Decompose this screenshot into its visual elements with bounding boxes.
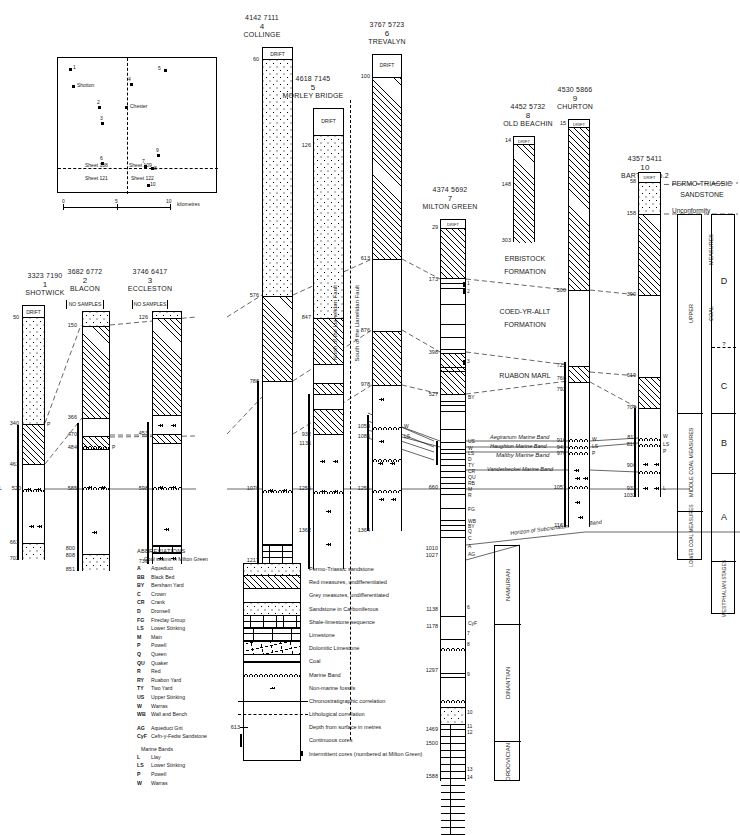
key-label-marine-band: Marine Band <box>309 672 341 678</box>
borehole-6-depth-978: 978 <box>352 381 370 387</box>
map-label-4: 4 <box>128 76 131 82</box>
coal-seam-BY2 <box>441 525 465 526</box>
borehole-5-depth-847: 847 <box>291 314 311 320</box>
map-scale-bar: 0 5 10 kilometres <box>63 203 173 213</box>
borehole-4-depth-60: 60 <box>242 56 259 62</box>
borehole-5-morley-bridge: 4618 7145 5 MORLEY BRIDGE <box>263 75 363 101</box>
map-point-5 <box>164 69 167 72</box>
legend-row-lithological: Lithological correlation <box>243 708 473 721</box>
coal-seam-C <box>441 537 465 538</box>
abbreviation-row: CRCrank <box>137 598 257 607</box>
borehole-2-depth-808: 808 <box>58 552 75 558</box>
marine-band-label-vanderbeckei: Vanderbeckei Marine Band <box>487 466 553 472</box>
abbreviation-row: TYTwo Yard <box>137 684 257 693</box>
depth-example-value: 613 <box>222 724 240 730</box>
abbreviation-code: LS <box>137 761 151 770</box>
legend-row-coal: Coal <box>243 655 473 668</box>
map-scale-tick-0: 0 <box>62 198 65 204</box>
key-swatch-red-measures <box>243 576 301 589</box>
abbreviation-code: AG <box>137 724 151 733</box>
abbreviation-name: Aqueduct <box>151 565 173 571</box>
borehole-7-continuous-core <box>436 441 438 465</box>
borehole-3-no-samples-brackets <box>132 300 168 310</box>
borehole-5-header: 4618 7145 5 MORLEY BRIDGE <box>263 75 363 101</box>
coal-seam-R <box>441 494 465 495</box>
stage-D: D <box>712 215 736 347</box>
borehole-2-depth-484: 484 <box>60 444 77 450</box>
borehole-5-continuous-core <box>308 394 310 569</box>
borehole-2-no-samples-brackets <box>66 300 104 310</box>
borehole-3-red-measures-lower <box>153 434 181 444</box>
coal-seam-CR <box>441 471 465 472</box>
marine-band-swatch <box>244 674 300 677</box>
map-sheet-109-label: Sheet 109 <box>129 162 152 168</box>
abbreviation-row: QUQuaker <box>137 659 257 668</box>
borehole-9-coed-yr-allt <box>569 291 589 366</box>
borehole-2-grey-measures-lower <box>83 450 109 554</box>
key-swatch-sandstone-carboniferous <box>243 603 301 616</box>
borehole-7-name: MILTON GREEN <box>405 203 495 212</box>
map-label-shotton: Shotton <box>77 82 94 88</box>
upper-text: UPPER <box>688 305 694 324</box>
borehole-7-red-measures-ruabon-marl <box>441 353 465 395</box>
marine-band-llay <box>23 489 44 492</box>
legend-row-permo-triassic: Permo-Triassic sandstone <box>243 563 473 576</box>
borehole-5-number: 5 <box>263 84 363 93</box>
borehole-7-seam-US: US <box>468 438 475 444</box>
borehole-1-depth-340: 340 <box>2 420 19 426</box>
borehole-4-drift: DRIFT <box>263 48 292 60</box>
lower-text: LOWER COAL MEASURES <box>688 505 694 568</box>
non-marine-fossil-mark <box>29 525 34 528</box>
abbreviation-code: RY <box>137 676 151 685</box>
borehole-10-seam-LS: LS <box>663 441 669 447</box>
map-point-3 <box>101 122 104 125</box>
legend-row-grey-measures: Grey measures, undifferentiated <box>243 589 473 602</box>
borehole-1-depth-50: 50 <box>2 314 19 320</box>
borehole-8-column: DRIFT <box>513 136 535 242</box>
key-swatch-marine-band <box>243 669 301 682</box>
abbreviation-code: LS <box>137 624 151 633</box>
key-label-chronostratigraphic: Chronostratigraphic correlation <box>309 698 386 704</box>
abbreviation-name: Lower Stinking <box>151 625 185 631</box>
abbreviation-code: Q <box>137 650 151 659</box>
borehole-3-depth-453: 453 <box>131 430 148 436</box>
map-label-chester: Chester <box>130 103 148 109</box>
borehole-7-red-measures-erbistock <box>441 229 465 279</box>
fault-label-north: North of the Llanelidan Fault <box>332 285 338 360</box>
borehole-10-number: 10 <box>600 164 690 173</box>
abbreviation-name: Dronsell <box>151 608 170 614</box>
borehole-10-seam-L: L <box>663 485 666 491</box>
borehole-3-depth-126: 126 <box>131 314 148 320</box>
borehole-8-depth-14: 14 <box>496 137 511 143</box>
borehole-9-depth-970: 970 <box>548 450 566 456</box>
borehole-8-drift: DRIFT <box>514 137 534 145</box>
borehole-1-seam-P: P <box>47 421 50 427</box>
marine-band-haughton <box>639 444 660 447</box>
borehole-3-grey-measures-upper <box>153 416 181 434</box>
borehole-7-depth-1588: 1588 <box>416 773 438 779</box>
borehole-3-column <box>152 311 182 564</box>
fossil-swatch <box>270 687 275 690</box>
abbreviation-row: WWarras <box>137 779 257 788</box>
non-marine-fossil-mark <box>379 498 384 501</box>
borehole-10-depth-158: 158 <box>618 210 636 216</box>
borehole-10-drift: DRIFT <box>639 173 660 183</box>
non-marine-fossil-mark <box>643 463 648 466</box>
borehole-10-depth-1032: 1032 <box>615 492 636 498</box>
borehole-3-continuous-core <box>147 422 149 564</box>
abbreviation-row: LSLower Stinking <box>137 624 257 633</box>
non-marine-fossil-mark <box>575 477 580 480</box>
borehole-6-seam-LS: LS <box>404 433 410 439</box>
borehole-3-header: 3746 6417 3 ECCLESTON <box>110 268 190 294</box>
borehole-3-eccleston: 3746 6417 3 ECCLESTON <box>110 268 190 294</box>
borehole-10-permo-triassic-sandstone <box>639 183 660 215</box>
borehole-7-depth-527: 527 <box>420 391 438 397</box>
coal-seam-TY <box>441 465 465 466</box>
borehole-2-red-measures-lower <box>83 436 109 450</box>
borehole-7-seam-C: C <box>468 535 472 541</box>
map-point-4 <box>130 83 133 86</box>
borehole-9-seam-P: P <box>592 450 595 456</box>
non-marine-fossil-mark <box>326 543 331 546</box>
borehole-7-intermittent-core-2 <box>463 289 465 294</box>
system-ordovician: ORDOVICIAN <box>495 741 521 782</box>
